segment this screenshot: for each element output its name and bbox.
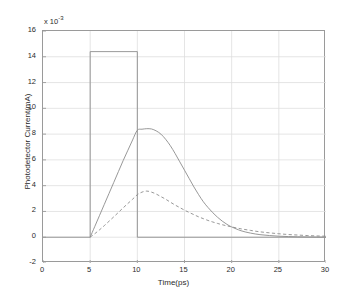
- y-tick-label: -2: [0, 258, 36, 266]
- x-tick-label: 30: [305, 266, 345, 274]
- exponent-prefix: x 10: [44, 17, 58, 26]
- gridlines: [43, 31, 326, 263]
- x-tick-label: 15: [164, 266, 204, 274]
- y-tick-label: 14: [0, 52, 36, 60]
- y-axis-label: Photodetector Current(mA): [23, 62, 32, 222]
- y-tick-label: 0: [0, 232, 36, 240]
- x-tick-label: 10: [116, 266, 156, 274]
- x-tick-label: 5: [69, 266, 109, 274]
- series-photodetector-current-slow: [90, 191, 326, 237]
- y-tick-label: 16: [0, 26, 36, 34]
- x-axis-label: Time(ps): [0, 278, 347, 287]
- plot-area: [42, 30, 325, 262]
- exponent-superscript: -3: [58, 15, 63, 21]
- plot-svg: [43, 31, 326, 263]
- chart-figure: x 10-3 1614121086420-2 051015202530 Time…: [0, 0, 347, 297]
- y-axis-exponent-label: x 10-3: [44, 15, 64, 26]
- x-tick-label: 25: [258, 266, 298, 274]
- x-tick-label: 0: [22, 266, 62, 274]
- x-tick-label: 20: [211, 266, 251, 274]
